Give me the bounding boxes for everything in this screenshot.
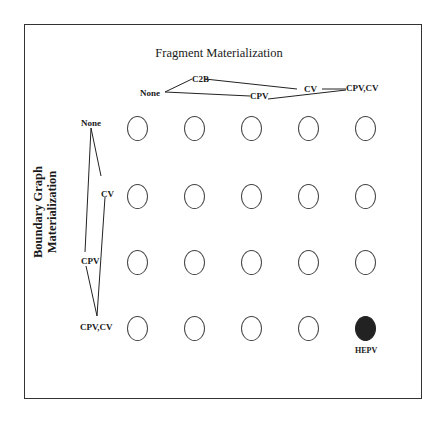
config-node xyxy=(241,184,262,209)
config-node xyxy=(355,316,376,341)
config-node xyxy=(355,116,376,141)
config-node xyxy=(298,316,319,341)
config-node xyxy=(184,316,205,341)
fragment-label-cpv: CPV xyxy=(250,91,269,101)
boundary-label-cv: CV xyxy=(101,189,114,199)
hepv-label: HEPV xyxy=(355,346,377,355)
config-node xyxy=(241,316,262,341)
config-node xyxy=(298,250,319,275)
fragment-label-cv: CV xyxy=(304,84,317,94)
config-node xyxy=(355,250,376,275)
lattice-edges xyxy=(0,0,438,427)
fragment-label-none: None xyxy=(140,88,160,98)
config-node xyxy=(184,250,205,275)
fragment-label-c2b: C2B xyxy=(192,74,209,84)
config-node xyxy=(241,250,262,275)
config-node xyxy=(127,116,148,141)
config-node xyxy=(298,116,319,141)
config-node xyxy=(127,184,148,209)
config-node xyxy=(241,116,262,141)
fragment-label-cpv-cv: CPV,CV xyxy=(346,83,379,93)
config-node xyxy=(127,316,148,341)
config-node xyxy=(127,250,148,275)
boundary-label-none: None xyxy=(81,118,101,128)
config-node xyxy=(184,184,205,209)
config-node xyxy=(184,116,205,141)
config-node xyxy=(355,184,376,209)
boundary-label-cpv-cv: CPV,CV xyxy=(80,322,113,332)
config-node xyxy=(298,184,319,209)
boundary-label-cpv: CPV xyxy=(81,256,100,266)
